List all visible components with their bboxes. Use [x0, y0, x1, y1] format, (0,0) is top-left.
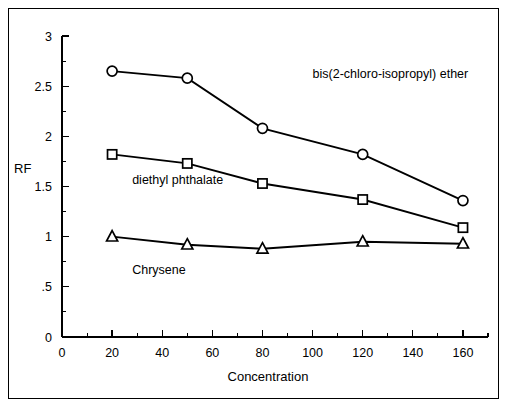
y-tick-label: 2: [45, 130, 52, 144]
data-point-circle: [358, 149, 368, 159]
series-line-triangle: [112, 237, 463, 249]
data-point-circle: [458, 196, 468, 206]
data-point-square: [108, 150, 117, 159]
data-point-square: [458, 223, 467, 232]
y-tick-label: 2.5: [35, 80, 52, 94]
data-series: [107, 66, 469, 253]
y-tick-label: 1.5: [35, 180, 52, 194]
series-label-3: Chrysene: [132, 263, 186, 277]
chart-figure: 0204060801001201401600.511.522.53 bis(2-…: [0, 0, 507, 407]
x-tick-label: 80: [256, 346, 270, 360]
y-tick-label: 3: [45, 30, 52, 44]
x-tick-label: 20: [105, 346, 119, 360]
y-tick-label: 1: [45, 230, 52, 244]
y-axis-title: RF: [14, 161, 31, 176]
x-tick-label: 60: [205, 346, 219, 360]
series-line-square: [112, 154, 463, 227]
y-tick-label: 0: [45, 331, 52, 345]
series-label-1: bis(2-chloro-isopropyl) ether: [313, 67, 469, 81]
data-point-triangle: [107, 231, 118, 241]
data-point-circle: [182, 73, 192, 83]
data-point-square: [358, 195, 367, 204]
line-chart-plot: 0204060801001201401600.511.522.53 bis(2-…: [0, 0, 507, 407]
x-tick-label: 120: [352, 346, 373, 360]
data-point-circle: [257, 123, 267, 133]
series-2: [108, 150, 468, 232]
x-tick-label: 0: [59, 346, 66, 360]
x-tick-label: 40: [155, 346, 169, 360]
x-tick-label: 100: [302, 346, 323, 360]
y-tick-label: .5: [42, 280, 52, 294]
series-label-2: diethyl phthalate: [132, 173, 223, 187]
axes: [62, 36, 488, 337]
x-tick-label: 140: [402, 346, 423, 360]
series-3: [107, 231, 469, 253]
axis-ticks: [62, 36, 488, 337]
data-point-square: [183, 159, 192, 168]
x-axis-title: Concentration: [228, 369, 309, 384]
data-point-circle: [107, 66, 117, 76]
data-point-square: [258, 179, 267, 188]
x-tick-label: 160: [453, 346, 474, 360]
